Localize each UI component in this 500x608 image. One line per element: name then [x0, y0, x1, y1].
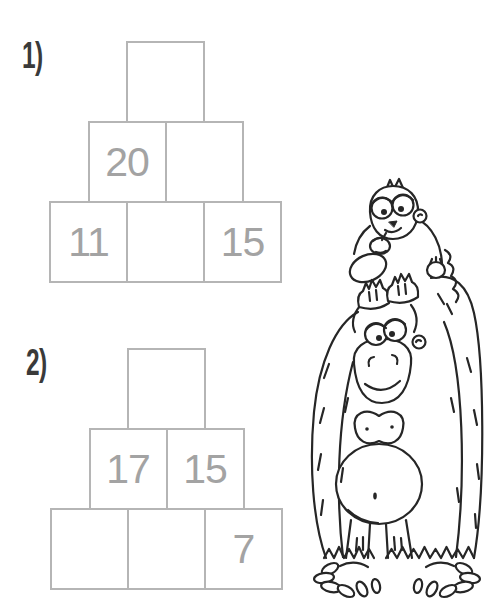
- problem-1-label: 1): [22, 38, 42, 74]
- pyramid-1-bottom-middle-cell[interactable]: [126, 201, 205, 283]
- pyramid-2-mid-right-cell[interactable]: 15: [166, 428, 245, 510]
- pyramid-2-top-cell[interactable]: [127, 348, 206, 430]
- number-pyramid-1: 20 11 15: [49, 41, 282, 283]
- pyramid-2-row-top: [127, 348, 206, 430]
- pyramid-1-mid-left-cell[interactable]: 20: [88, 121, 167, 203]
- problem-2-label: 2): [26, 345, 46, 381]
- pyramid-2-row-bottom: 7: [50, 508, 283, 590]
- pyramid-1-row-middle: 20: [88, 121, 244, 203]
- pyramid-1-mid-right-cell[interactable]: [165, 121, 244, 203]
- pyramid-2-bottom-right-cell[interactable]: 7: [204, 508, 283, 590]
- pyramid-2-row-middle: 17 15: [89, 428, 245, 510]
- pyramid-1-row-top: [126, 41, 205, 123]
- pyramid-2-mid-left-cell[interactable]: 17: [89, 428, 168, 510]
- number-pyramid-2: 17 15 7: [50, 348, 283, 590]
- baby-monkey: [345, 179, 458, 309]
- pyramid-1-row-bottom: 11 15: [49, 201, 282, 283]
- pyramid-1-bottom-right-cell[interactable]: 15: [203, 201, 282, 283]
- pyramid-2-bottom-middle-cell[interactable]: [127, 508, 206, 590]
- pyramid-1-top-cell[interactable]: [126, 41, 205, 123]
- gorilla-with-baby-monkey-illustration: [296, 166, 498, 606]
- adult-gorilla: [312, 277, 482, 600]
- pyramid-1-bottom-left-cell[interactable]: 11: [49, 201, 128, 283]
- pyramid-2-bottom-left-cell[interactable]: [50, 508, 129, 590]
- worksheet-page: 1) 20 11 15 2) 17 15 7: [0, 0, 500, 608]
